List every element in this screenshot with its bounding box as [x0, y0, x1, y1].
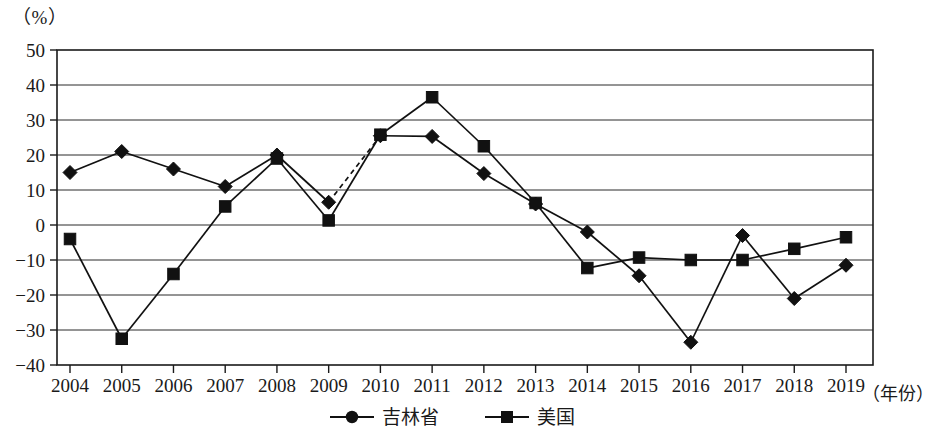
x-tick-label: 2009 [310, 375, 348, 396]
x-axis-title: （年份） [862, 379, 934, 405]
legend-marker-square [501, 411, 513, 423]
legend-item-1[interactable]: 吉林省 [330, 407, 439, 428]
x-tick-label: 2005 [103, 375, 141, 396]
series-segment [794, 237, 846, 249]
data-point-marker [582, 262, 594, 274]
x-tick-label: 2012 [465, 375, 503, 396]
series-segment [743, 236, 795, 299]
series-segment [691, 236, 743, 343]
x-tick-label: 2018 [775, 375, 813, 396]
y-tick-label: −40 [15, 355, 45, 376]
data-series-group [63, 92, 853, 350]
data-point-marker [375, 129, 387, 141]
legend-label: 吉林省 [382, 407, 439, 428]
data-point-marker [737, 254, 749, 266]
data-point-marker [530, 197, 542, 209]
y-tick-label: 30 [26, 110, 45, 131]
data-point-marker [63, 166, 77, 180]
x-tick-label: 2004 [51, 375, 90, 396]
line-chart-svg: 50403020100−10−20−30−40 2004200520062007… [0, 0, 935, 437]
y-axis-tick-labels: 50403020100−10−20−30−40 [15, 40, 45, 376]
data-point-marker [219, 201, 231, 213]
series-segment [70, 239, 122, 339]
series-segment [277, 159, 329, 221]
y-tick-label: 50 [26, 40, 45, 61]
series-segment [587, 258, 639, 269]
x-tick-label: 2017 [724, 375, 762, 396]
plot-frame [50, 50, 873, 365]
x-tick-label: 2019 [827, 375, 865, 396]
series-segment [536, 204, 588, 232]
x-tick-label: 2011 [413, 375, 450, 396]
x-tick-label: 2010 [361, 375, 399, 396]
plot-border [57, 50, 873, 365]
x-tick-label: 2008 [258, 375, 296, 396]
legend-label: 美国 [537, 407, 575, 428]
series-segment [173, 169, 225, 187]
series-segment [639, 276, 691, 343]
series-segment [536, 203, 588, 268]
data-point-marker [684, 335, 698, 349]
series-segment [329, 136, 381, 203]
data-point-marker [168, 268, 180, 280]
y-tick-label: 20 [26, 145, 45, 166]
gridlines-group [57, 85, 873, 330]
series-segment [329, 135, 381, 221]
series-segment [122, 152, 174, 170]
data-point-marker [166, 162, 180, 176]
x-tick-label: 2016 [672, 375, 710, 396]
data-point-marker [426, 92, 438, 104]
series-segment [794, 265, 846, 298]
y-tick-label: −20 [15, 285, 45, 306]
data-point-marker [425, 129, 439, 143]
y-tick-label: −10 [15, 250, 45, 271]
data-point-marker [115, 145, 129, 159]
series-1 [63, 129, 853, 350]
data-point-marker [685, 254, 697, 266]
data-point-marker [789, 243, 801, 255]
x-tick-label: 2014 [568, 375, 607, 396]
series-2 [64, 92, 852, 345]
data-point-marker [218, 180, 232, 194]
series-segment [484, 174, 536, 204]
y-tick-label: 0 [36, 215, 46, 236]
data-point-marker [478, 141, 490, 153]
x-tick-label: 2015 [620, 375, 658, 396]
legend-marker-diamond [346, 411, 358, 423]
series-segment [380, 136, 432, 137]
series-segment [122, 274, 174, 339]
y-tick-label: 10 [26, 180, 45, 201]
x-axis-tick-labels: 2004200520062007200820092010201120122013… [51, 375, 865, 396]
series-segment [743, 249, 795, 260]
data-point-marker [477, 167, 491, 181]
x-tick-label: 2006 [154, 375, 192, 396]
data-point-marker [323, 215, 335, 227]
x-tick-label: 2013 [517, 375, 555, 396]
chart-legend: 吉林省美国 [330, 407, 575, 428]
series-segment [277, 155, 329, 202]
series-segment [380, 97, 432, 134]
series-segment [587, 232, 639, 276]
x-tick-label: 2007 [206, 375, 244, 396]
legend-item-2[interactable]: 美国 [485, 407, 575, 428]
series-segment [173, 206, 225, 274]
data-point-marker [271, 153, 283, 165]
data-point-marker [64, 233, 76, 245]
data-point-marker [633, 252, 645, 263]
y-tick-label: −30 [15, 320, 45, 341]
y-tick-label: 40 [26, 75, 45, 96]
x-axis-tickmarks [70, 365, 846, 373]
data-point-marker [116, 333, 128, 345]
chart-container: （%） 50403020100−10−20−30−40 200420052006… [0, 0, 935, 437]
data-point-marker [840, 232, 852, 244]
series-segment [432, 97, 484, 146]
